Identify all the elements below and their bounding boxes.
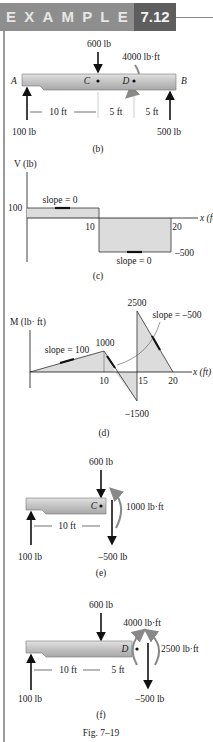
dim-10ft: 10 ft [58, 521, 76, 531]
reaction-left-label: 100 lb [12, 127, 36, 137]
dim-5ft-1: 5 ft [110, 107, 123, 117]
tick-20: 20 [172, 222, 182, 232]
moment-arrow-icon [112, 490, 121, 528]
caption-f: (f) [96, 710, 106, 721]
point-b-label: B [181, 76, 187, 86]
slope-right-label: slope = –500 [152, 310, 201, 320]
figure-7-19: 600 lb 4000 lb·ft A B C D 10 ft 5 ft 5 f… [0, 0, 213, 742]
reaction-right-label: 500 lb [157, 127, 181, 137]
tick-10: 10 [85, 222, 95, 232]
caption-b: (b) [92, 144, 103, 155]
value-neg500: –500 [174, 248, 194, 258]
tick-10: 10 [99, 376, 109, 386]
moment-diagram: M (lb· ft) x (ft) slope = 100 1000 2500 … [10, 298, 211, 439]
slope-bottom-label: slope = 0 [117, 256, 152, 266]
dim-5ft: 5 ft [112, 665, 125, 675]
shear-label: –500 lb [98, 552, 128, 562]
shear-xlabel: x (ft) [199, 213, 213, 224]
dim-5ft-2: 5 ft [146, 107, 159, 117]
moment-4000-label: 4000 lb·ft [122, 52, 160, 62]
shear-diagram: V (lb) x (ft) slope = 0 100 10 20 –500 s… [8, 159, 213, 282]
load-600-label: 600 lb [89, 457, 113, 467]
slope-left-label: slope = 100 [45, 345, 90, 355]
caption-e: (e) [96, 568, 107, 579]
reaction-left-label: 100 lb [18, 694, 42, 704]
figure-number: Fig. 7–19 [83, 728, 120, 738]
moment-ylabel: M (lb· ft) [10, 317, 46, 328]
slope-top-label: slope = 0 [43, 195, 78, 205]
caption-d: (d) [98, 428, 109, 439]
figure-f-freebody: 600 lb 4000 lb·ft D 2500 lb·ft 10 ft 5 f… [18, 600, 199, 721]
shear-ylabel: V (lb) [14, 159, 37, 170]
value-100: 100 [8, 203, 23, 213]
load-600-label: 600 lb [87, 39, 111, 49]
figure-b-beam: 600 lb 4000 lb·ft A B C D 10 ft 5 ft 5 f… [10, 39, 187, 155]
value-neg1500: –1500 [124, 409, 149, 419]
load-600-label: 600 lb [89, 600, 113, 610]
dim-10ft: 10 ft [49, 107, 67, 117]
point-d-dot [132, 79, 135, 82]
point-c-dot [96, 79, 99, 82]
moment-2500-label: 2500 lb·ft [161, 644, 199, 654]
point-c-label: C [91, 501, 98, 511]
shear-label: –500 lb [135, 694, 165, 704]
caption-c: (c) [93, 271, 104, 282]
beam-segment [26, 641, 132, 657]
value-2500: 2500 [128, 298, 147, 308]
moment-xlabel: x (ft) [192, 367, 211, 378]
tick-20: 20 [168, 376, 178, 386]
point-a-label: A [10, 76, 17, 86]
moment-internal-arrow-icon [147, 631, 159, 665]
point-c-label: C [84, 76, 91, 86]
value-1000: 1000 [96, 338, 115, 348]
moment-4000-label: 4000 lb·ft [123, 618, 161, 628]
point-d-label: D [122, 76, 130, 86]
figure-e-freebody: 600 lb C 1000 lb·ft 10 ft 100 lb –500 lb… [18, 457, 164, 579]
moment-1000-label: 1000 lb·ft [126, 502, 164, 512]
tick-15: 15 [138, 376, 148, 386]
reaction-left-label: 100 lb [18, 552, 42, 562]
point-d-label: D [121, 644, 129, 654]
dim-10ft: 10 ft [59, 665, 77, 675]
